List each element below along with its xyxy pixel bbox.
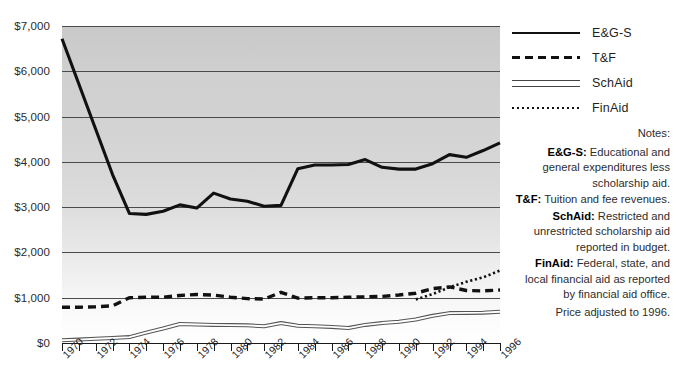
note-key: E&G-S: bbox=[547, 146, 586, 158]
series-lines bbox=[62, 26, 500, 343]
legend-line-glyph bbox=[512, 80, 580, 87]
note-text: Tuition and fee revenues. bbox=[541, 193, 670, 205]
note-key: FinAid: bbox=[535, 257, 574, 269]
note-item: SchAid: Restricted and unrestricted scho… bbox=[512, 209, 670, 256]
y-axis-tick-label: $2,000 bbox=[14, 246, 50, 258]
y-axis-tick-label: $5,000 bbox=[14, 111, 50, 123]
note-item: T&F: Tuition and fee revenues. bbox=[512, 192, 670, 208]
note-key: SchAid: bbox=[552, 210, 594, 222]
notes-title: Notes: bbox=[512, 126, 670, 142]
legend-label: T&F bbox=[592, 51, 616, 65]
series-line-finaid bbox=[416, 271, 500, 300]
note-key: T&F: bbox=[516, 193, 541, 205]
legend-item-e-g-s[interactable]: E&G-S bbox=[512, 20, 676, 45]
note-item: FinAid: Federal, state, and local financ… bbox=[512, 256, 670, 303]
chart-container: $0$1,000$2,000$3,000$4,000$5,000$6,000$7… bbox=[0, 0, 510, 384]
legend-line-glyph bbox=[512, 56, 580, 59]
legend-item-t-f[interactable]: T&F bbox=[512, 45, 676, 70]
side-panel: E&G-ST&FSchAidFinAid Notes: E&G-S: Educa… bbox=[512, 0, 676, 384]
notes-items: E&G-S: Educational and general expenditu… bbox=[512, 145, 670, 303]
chart-page: $0$1,000$2,000$3,000$4,000$5,000$6,000$7… bbox=[0, 0, 676, 384]
y-axis-tick-label: $0 bbox=[37, 337, 50, 349]
legend-swatch-icon bbox=[512, 77, 580, 89]
legend-item-finaid[interactable]: FinAid bbox=[512, 95, 676, 120]
legend-swatch-icon bbox=[512, 52, 580, 64]
note-price-adjusted: Price adjusted to 1996. bbox=[512, 305, 670, 321]
legend-swatch-icon bbox=[512, 27, 580, 39]
y-axis-tick-label: $1,000 bbox=[14, 292, 50, 304]
legend-label: E&G-S bbox=[592, 26, 632, 40]
series-line-e-g-s bbox=[62, 39, 500, 215]
y-axis-tick-label: $4,000 bbox=[14, 156, 50, 168]
legend-line-glyph bbox=[512, 107, 580, 110]
legend-label: SchAid bbox=[592, 76, 633, 90]
chart-legend: E&G-ST&FSchAidFinAid bbox=[512, 20, 676, 120]
y-axis-tick-label: $7,000 bbox=[14, 20, 50, 32]
legend-swatch-icon bbox=[512, 102, 580, 114]
legend-label: FinAid bbox=[592, 101, 629, 115]
legend-line-glyph bbox=[512, 32, 580, 35]
y-axis-tick-label: $6,000 bbox=[14, 65, 50, 77]
note-item: E&G-S: Educational and general expenditu… bbox=[512, 145, 670, 192]
series-line-t-f bbox=[62, 287, 500, 307]
notes-block: Notes: E&G-S: Educational and general ex… bbox=[512, 126, 670, 320]
legend-item-schaid[interactable]: SchAid bbox=[512, 70, 676, 95]
y-axis-labels: $0$1,000$2,000$3,000$4,000$5,000$6,000$7… bbox=[0, 0, 60, 384]
y-axis-tick-label: $3,000 bbox=[14, 201, 50, 213]
